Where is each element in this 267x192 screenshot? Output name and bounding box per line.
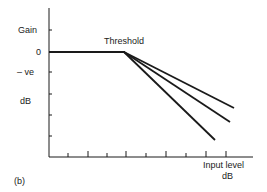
slope-line-low-ratio <box>124 52 234 108</box>
x-axis-ticks <box>68 151 226 157</box>
y-zero-label: 0 <box>36 47 41 57</box>
slope-line-high-ratio <box>124 52 215 140</box>
y-axis-title: Gain <box>18 25 37 35</box>
panel-label: (b) <box>14 176 25 186</box>
x-axis-unit: dB <box>222 171 233 181</box>
threshold-annotation: Threshold <box>104 36 144 46</box>
x-axis-title: Input level <box>203 160 244 170</box>
y-negative-label: – ve <box>17 67 34 77</box>
slope-line-medium-ratio <box>124 52 230 122</box>
y-unit-label: dB <box>20 96 31 106</box>
